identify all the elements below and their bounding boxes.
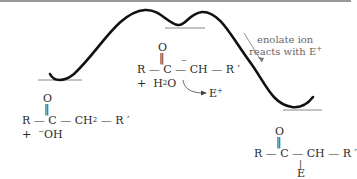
annotation-line-1: enolate ion bbox=[257, 34, 313, 45]
product-double-bond: ‖ bbox=[276, 136, 282, 147]
reactant-hydroxide: + −OH bbox=[22, 129, 63, 140]
electrophile: E+ bbox=[209, 88, 223, 99]
product-substituent: E bbox=[297, 168, 305, 179]
annotation-line-2: reacts with E+ bbox=[249, 46, 322, 57]
intermediate-water: + H2O bbox=[137, 78, 176, 89]
curved-arrow bbox=[183, 80, 204, 93]
product-formula: R — C — CH — R ′ bbox=[254, 148, 357, 159]
intermediate-formula: R — C — CH — R ′ bbox=[137, 64, 240, 75]
reactant-double-bond: ‖ bbox=[44, 103, 50, 114]
reactant-formula: R — C — CH2 — R ′ bbox=[22, 115, 129, 126]
intermediate-double-bond: ‖ bbox=[159, 52, 165, 63]
